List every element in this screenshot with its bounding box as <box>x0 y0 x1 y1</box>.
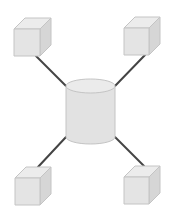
cube-front-face <box>14 29 40 56</box>
edge-top-left <box>36 56 66 86</box>
cube-front-face <box>124 28 149 55</box>
star-topology-diagram <box>0 0 169 215</box>
cylinder-body <box>66 86 115 144</box>
cube-node-top-left[interactable] <box>14 18 51 56</box>
cube-node-bottom-right[interactable] <box>124 166 160 204</box>
cylinder-database[interactable] <box>66 79 115 144</box>
edge-bottom-right <box>115 137 144 166</box>
cube-front-face <box>15 178 40 205</box>
cube-front-face <box>124 177 149 204</box>
cube-node-bottom-left[interactable] <box>15 167 51 205</box>
edge-bottom-left <box>38 137 66 167</box>
cylinder-top <box>66 79 115 93</box>
cube-node-top-right[interactable] <box>124 17 160 55</box>
edge-top-right <box>115 55 145 86</box>
